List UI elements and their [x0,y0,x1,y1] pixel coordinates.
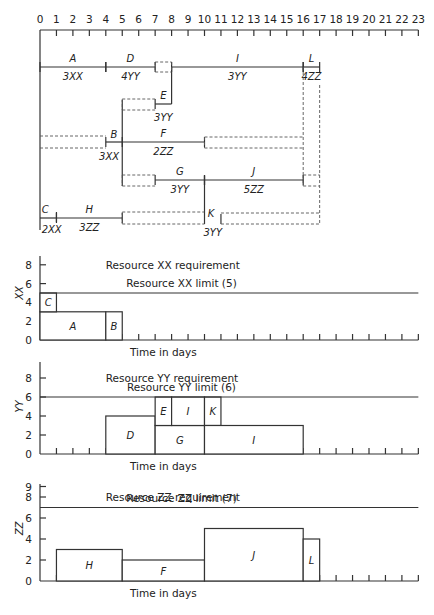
activity-label: J [250,166,255,177]
y-tick-label: 4 [25,410,32,422]
block-label: E [160,406,167,417]
time-axis: 01234567891011121314151617181920212223 [37,13,425,230]
tick-label: 23 [412,13,425,25]
block-label: I [187,406,190,417]
block-label: I [252,435,255,446]
float-box [40,136,106,148]
activity-resource: 3XX [99,151,120,162]
x-axis-label: Time in days [129,346,197,358]
limit-label: Resource YY limit (6) [127,381,236,393]
activity-label: G [176,166,184,177]
y-tick-label: 0 [25,448,32,460]
activity-label: H [86,204,94,215]
y-tick-label: 9 [25,481,32,493]
tick-label: 17 [313,13,326,25]
float-box [205,137,304,148]
y-tick-label: 4 [25,296,32,308]
chart-resource-zz: 024689ZZResource ZZ requirementHFJLResou… [14,481,418,600]
activity-resource: 3YY [203,227,222,238]
tick-label: 6 [135,13,142,25]
chart-resource-yy: 02468YYResource YY requirementDGEIKIReso… [14,362,418,472]
y-tick-label: 8 [25,259,32,271]
block-label: H [86,560,94,571]
activity-label: A [68,53,76,64]
tick-label: 18 [329,13,342,25]
tick-label: 4 [102,13,109,25]
tick-label: 11 [214,13,227,25]
tick-label: 10 [198,13,211,25]
x-axis-label: Time in days [129,587,197,599]
activity-label: I [236,53,239,64]
x-axis-label: Time in days [129,460,197,472]
tick-label: 5 [119,13,126,25]
y-tick-label: 8 [25,491,32,503]
tick-label: 22 [395,13,408,25]
activity-resource: 3YY [228,71,247,82]
tick-label: 16 [297,13,311,25]
block-label: B [111,321,118,332]
block-label: L [309,555,315,566]
float-box [122,99,155,110]
activity-resource: 3YY [154,112,173,123]
block-label: G [176,435,184,446]
block-label: C [45,297,52,308]
y-tick-label: 6 [25,512,32,524]
activity-label: B [111,129,118,140]
float-box [155,62,171,72]
activity-resource: 3ZZ [79,222,100,233]
tick-label: 3 [86,13,93,25]
y-tick-label: 0 [25,334,32,346]
y-tick-label: 8 [25,372,32,384]
resource-diagram: 01234567891011121314151617181920212223 A… [0,0,434,615]
y-axis-label: XX [14,285,25,301]
tick-label: 7 [152,13,159,25]
activity-label: E [160,90,167,101]
activity-label: C [42,204,49,215]
tick-label: 13 [247,13,260,25]
float-box [122,212,204,224]
y-tick-label: 4 [25,533,32,545]
tick-label: 9 [185,13,192,25]
limit-label: Resource XX limit (5) [126,277,237,289]
tick-label: 19 [346,13,359,25]
activity-resource: 3YY [171,184,190,195]
chart-title: Resource XX requirement [106,259,240,271]
y-axis-label: ZZ [14,521,25,537]
activity-network: A3XXD4YYI3YYL4ZZF2ZZG3YYJ5ZZH3ZZE3YYB3XX… [40,53,323,238]
activity-label: D [127,53,135,64]
activity-resource: 2ZZ [153,146,174,157]
block-label: A [68,321,76,332]
tick-label: 12 [231,13,244,25]
block-label: D [127,430,135,441]
activity-label: L [309,53,315,64]
activity-resource: 5ZZ [244,184,265,195]
float-box [221,213,320,224]
tick-label: 14 [264,13,278,25]
activity-label: K [208,208,216,219]
tick-label: 8 [168,13,175,25]
tick-label: 2 [70,13,77,25]
block-label: F [160,566,166,577]
y-tick-label: 2 [25,429,32,441]
y-tick-label: 2 [25,315,32,327]
activity-resource: 2XX [42,224,63,235]
tick-label: 1 [53,13,60,25]
y-tick-label: 6 [25,391,32,403]
activity-resource: 4ZZ [301,71,322,82]
y-tick-label: 2 [25,554,32,566]
y-tick-label: 6 [25,278,32,290]
chart-resource-xx: 02468XXResource XX requirementACBResourc… [14,256,418,358]
y-axis-label: YY [14,400,25,413]
tick-label: 21 [379,13,392,25]
float-box [122,175,155,186]
activity-resource: 4YY [121,71,140,82]
tick-label: 20 [362,13,375,25]
limit-label: Resource ZZ limit (7) [126,492,237,504]
activity-resource: 3XX [63,71,84,82]
tick-label: 15 [280,13,293,25]
y-tick-label: 0 [25,575,32,587]
activity-label: F [160,128,166,139]
float-box [303,175,319,186]
tick-label: 0 [37,13,44,25]
